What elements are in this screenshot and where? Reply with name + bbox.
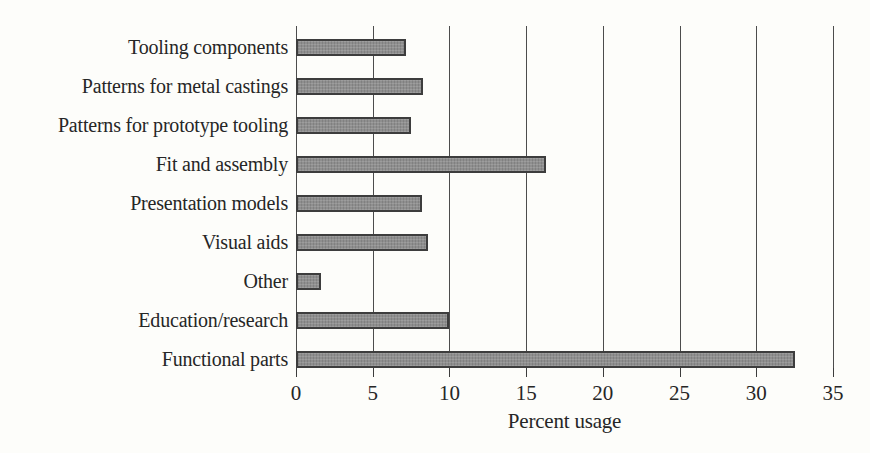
- tick-label-20: 20: [581, 381, 625, 406]
- bar-tooling-components: [296, 39, 406, 56]
- bar-patterns-for-metal-castings: [296, 78, 423, 95]
- bar-education-research: [296, 312, 449, 329]
- tick-label-10: 10: [427, 381, 471, 406]
- gridline-35: [833, 26, 834, 368]
- tick-label-15: 15: [504, 381, 548, 406]
- category-label-patterns-for-metal-castings: Patterns for metal castings: [0, 74, 288, 98]
- bar-fit-and-assembly: [296, 156, 546, 173]
- tick-label-30: 30: [734, 381, 778, 406]
- bar-functional-parts: [296, 351, 795, 368]
- tick-label-0: 0: [274, 381, 318, 406]
- tick-mark-10: [449, 368, 450, 377]
- bar-chart-figure: Tooling componentsPatterns for metal cas…: [0, 0, 870, 453]
- tick-mark-15: [526, 368, 527, 377]
- tick-mark-0: [296, 368, 297, 377]
- gridline-15: [526, 26, 527, 368]
- category-label-functional-parts: Functional parts: [0, 347, 288, 371]
- gridline-20: [603, 26, 604, 368]
- category-label-visual-aids: Visual aids: [0, 230, 288, 254]
- tick-mark-5: [373, 368, 374, 377]
- tick-mark-20: [603, 368, 604, 377]
- tick-label-35: 35: [811, 381, 855, 406]
- bar-patterns-for-prototype-tooling: [296, 117, 411, 134]
- tick-mark-25: [680, 368, 681, 377]
- gridline-25: [680, 26, 681, 368]
- x-axis-title: Percent usage: [296, 409, 833, 434]
- bar-other: [296, 273, 321, 290]
- category-label-patterns-for-prototype-tooling: Patterns for prototype tooling: [0, 113, 288, 137]
- category-label-fit-and-assembly: Fit and assembly: [0, 152, 288, 176]
- tick-mark-30: [756, 368, 757, 377]
- category-label-education-research: Education/research: [0, 308, 288, 332]
- gridline-30: [756, 26, 757, 368]
- category-label-presentation-models: Presentation models: [0, 191, 288, 215]
- category-label-tooling-components: Tooling components: [0, 35, 288, 59]
- bar-presentation-models: [296, 195, 422, 212]
- tick-label-25: 25: [658, 381, 702, 406]
- tick-mark-35: [833, 368, 834, 377]
- category-label-other: Other: [0, 269, 288, 293]
- plot-area: [296, 26, 833, 368]
- bar-visual-aids: [296, 234, 428, 251]
- tick-label-5: 5: [351, 381, 395, 406]
